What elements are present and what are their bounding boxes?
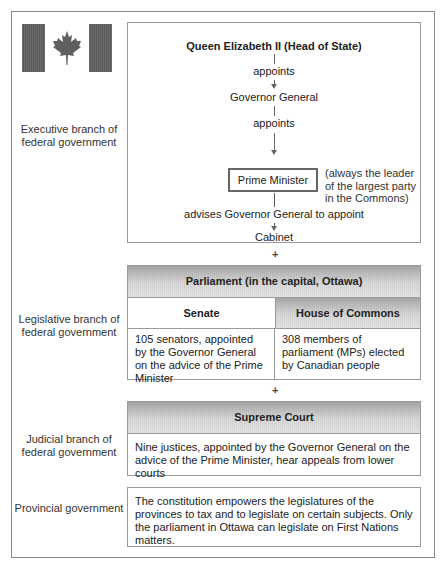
flag-left-bar [22,24,45,72]
canada-flag-icon [22,24,112,72]
provincial-box: The constitution empowers the legislatur… [127,487,421,547]
arrow-down-icon [271,150,277,155]
note-line: of the largest party [325,180,416,193]
executive-branch-label: Executive branch of federal government [14,123,124,149]
parliament-header: Parliament (in the capital, Ottawa) [128,266,420,298]
judicial-box: Supreme Court Nine justices, appointed b… [127,401,421,476]
supreme-court-description: Nine justices, appointed by the Governor… [128,434,420,487]
prime-minister-box: Prime Minister [228,168,318,192]
cabinet: Cabinet [128,231,420,243]
judicial-branch-label: Judicial branch of federal government [14,433,124,459]
connector-line [274,106,275,116]
plus-sign: + [272,248,278,260]
provincial-description: The constitution empowers the legislatur… [128,488,420,554]
advises-label: advises Governor General to appoint [128,208,420,220]
flag-center [45,24,89,72]
senate-description: 105 senators, appointed by the Governor … [128,329,275,380]
arrow-down-icon [271,84,277,89]
supreme-court-header: Supreme Court [128,402,420,434]
senate-header: Senate [128,298,276,328]
commons-description: 308 members of parliament (MPs) elected … [275,329,420,380]
appoints-label-2: appoints [128,117,420,129]
connector-line [274,54,275,64]
note-line: (always the leader [325,167,416,180]
appoints-label-1: appoints [128,65,420,77]
note-line: in the Commons) [325,192,416,205]
chamber-descriptions: 105 senators, appointed by the Governor … [128,329,420,380]
provincial-label: Provincial government [14,502,124,515]
plus-sign: + [272,384,278,396]
head-of-state: Queen Elizabeth II (Head of State) [128,40,420,52]
legislative-branch-label: Legislative branch of federal government [14,313,124,339]
legislative-box: Parliament (in the capital, Ottawa) Sena… [127,265,421,380]
chamber-headers: Senate House of Commons [128,298,420,329]
governor-general: Governor General [128,91,420,103]
maple-leaf-icon [51,29,83,67]
connector-line [274,193,275,207]
commons-header: House of Commons [276,298,420,328]
executive-box: Queen Elizabeth II (Head of State) appoi… [127,22,421,243]
prime-minister-note: (always the leader of the largest party … [325,167,416,205]
flag-right-bar [89,24,112,72]
connector-line [274,133,275,151]
